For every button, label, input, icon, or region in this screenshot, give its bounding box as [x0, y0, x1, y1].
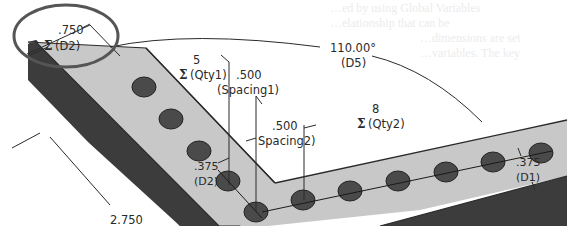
dim-name: (D2) [194, 175, 218, 188]
cad-diagram: …ed by using Global Variables …elationsh… [0, 0, 583, 226]
dim-value: 110.00° [330, 41, 376, 55]
leader-line [221, 55, 229, 62]
dim-name: (D2) [55, 39, 80, 53]
hole [338, 181, 362, 201]
dim-value: .375 [194, 160, 219, 173]
dimension-arrow [304, 125, 316, 128]
dim-value: .375 [516, 156, 541, 169]
dim-qty1: 5 Σ (Qty1) [179, 53, 227, 82]
svg-text:…ed by using Global Variables: …ed by using Global Variables [330, 1, 481, 15]
svg-text:…elationship that can be: …elationship that can be [330, 16, 450, 30]
dim-angle-d5: 110.00° (D5) [330, 41, 376, 70]
dim-spacing2: .500 Spacing2) [258, 119, 316, 148]
dim-name: (D5) [341, 56, 366, 70]
svg-text:…variables. The key: …variables. The key [420, 46, 520, 60]
leader-line [256, 96, 262, 104]
angle-arc [372, 56, 482, 122]
dim-value: 5 [193, 53, 200, 67]
dim-value: 2.750 [110, 213, 143, 226]
dim-name: (Qty2) [368, 117, 405, 131]
dim-d2-width: .750 Σ (D2) [44, 23, 84, 53]
dim-name: (Spacing1) [217, 83, 279, 97]
angle-arc [110, 39, 320, 48]
dim-qty2: 8 Σ (Qty2) [357, 102, 405, 131]
dim-name: Spacing2) [258, 134, 316, 148]
dimension-arrow [246, 138, 256, 141]
svg-text:…dimensions are set: …dimensions are set [420, 31, 521, 45]
hole [386, 171, 410, 191]
hole [132, 77, 156, 97]
dim-name: (Qty1) [190, 68, 227, 82]
dim-value: .500 [272, 119, 298, 133]
dim-value: .750 [58, 23, 84, 37]
sigma-icon: Σ [179, 68, 187, 82]
dim-name: (D1) [516, 171, 540, 184]
dim-length: 2.750 [110, 213, 143, 226]
extension-line [12, 133, 40, 148]
sigma-icon: Σ [357, 117, 365, 131]
dim-value: .500 [236, 68, 262, 82]
dim-value: 8 [372, 102, 379, 116]
hole [187, 141, 211, 161]
hole [291, 190, 315, 210]
sigma-icon: Σ [44, 39, 52, 53]
hole [159, 109, 183, 129]
